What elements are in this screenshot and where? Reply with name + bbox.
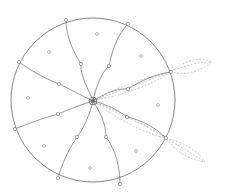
spoke-6 (58, 101, 93, 178)
sector-dot-4 (135, 150, 138, 153)
sector-dot-1 (96, 33, 99, 36)
mid-node-8 (57, 82, 60, 85)
sector-dot-3 (157, 104, 160, 107)
rim-node-3 (169, 70, 172, 73)
leaf-lower-outer-mid (166, 138, 205, 162)
mid-node-7 (56, 112, 59, 115)
rim-node-1 (64, 18, 67, 21)
spiral-partition-diagram (0, 0, 228, 195)
leaf-lower-inner-mid (96, 103, 166, 138)
mid-node-1 (79, 62, 82, 65)
leaf-upper-outer (171, 59, 212, 73)
mid-node-3 (126, 87, 129, 90)
rim-node-5 (118, 182, 121, 185)
mid-node-6 (75, 135, 78, 138)
spoke-8 (19, 62, 93, 101)
sector-dot-6 (43, 145, 46, 148)
mid-node-5 (104, 135, 107, 138)
spoke-1 (66, 20, 93, 101)
sector-dot-2 (140, 55, 143, 58)
rim-node-7 (13, 127, 16, 130)
spoke-5 (93, 101, 120, 184)
mid-node-2 (107, 64, 110, 67)
dashed-leaves (96, 59, 212, 162)
leaf-lower-inner (96, 103, 166, 138)
rim-node-2 (126, 22, 129, 25)
rim-node-6 (56, 176, 59, 179)
sector-dot-8 (48, 51, 51, 54)
sector-dot-5 (89, 167, 92, 170)
mid-node-4 (125, 115, 128, 118)
spoke-7 (15, 101, 93, 129)
rim-node-8 (17, 60, 20, 63)
rim-node-4 (164, 136, 167, 139)
center-hub (89, 97, 97, 105)
sector-dot-7 (27, 97, 30, 100)
